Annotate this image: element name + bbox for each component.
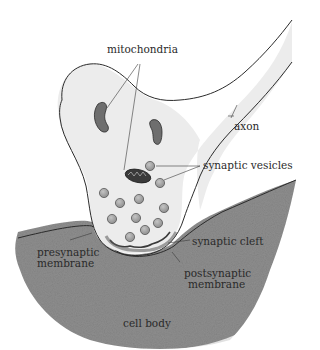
label-postsynaptic-line2: membrane [188, 279, 245, 290]
label-axon: axon [234, 121, 259, 132]
label-synaptic-cleft: synaptic cleft [192, 236, 263, 247]
label-cell-body: cell body [123, 318, 171, 329]
label-synaptic-vesicles: synaptic vesicles [203, 160, 293, 171]
label-presynaptic-line2: membrane [37, 258, 94, 269]
label-mitochondria: mitochondria [107, 44, 178, 55]
